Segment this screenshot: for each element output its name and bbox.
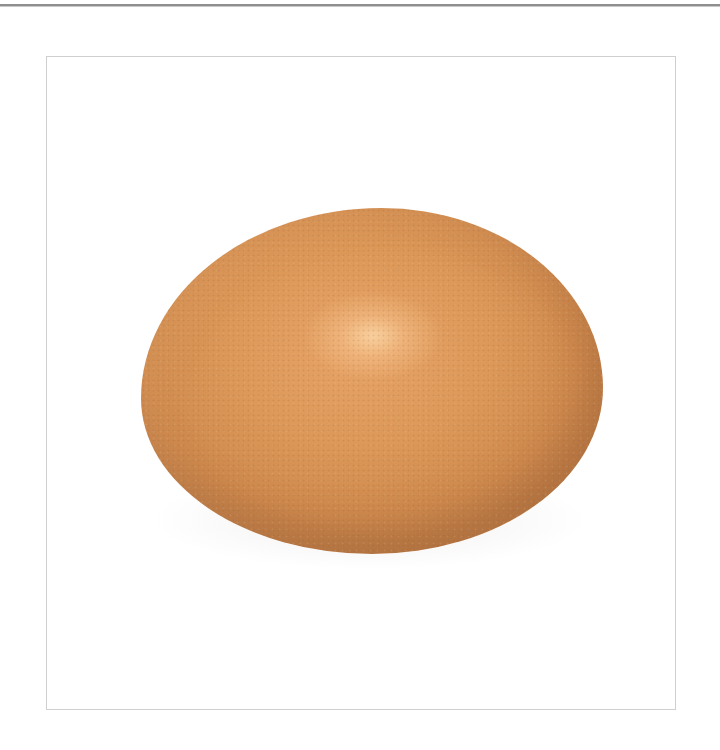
page (0, 0, 720, 750)
top-divider (0, 4, 720, 6)
